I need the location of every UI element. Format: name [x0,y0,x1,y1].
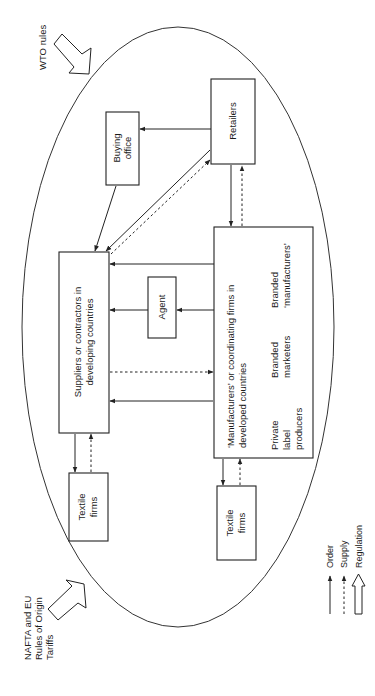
svg-text:Branded: Branded [269,272,280,308]
edge-buying-office-suppliers-order [95,186,116,251]
svg-text:Private: Private [269,420,280,450]
svg-text:Order: Order [325,545,335,568]
agent-node: Agent [148,277,176,338]
svg-text:Branded: Branded [269,342,280,378]
value-chain-diagram: WTO rules NAFTA and EU Rules of Origin T… [0,0,375,696]
legend-supply: Supply [339,540,349,614]
buying-office-node: Buying office [106,112,139,185]
svg-text:‘Manufacturers’ or coordinatin: ‘Manufacturers’ or coordinating firms in [225,285,236,448]
svg-text:label: label [281,430,292,450]
textile-firms-left-node: Textile firms [69,473,108,541]
nafta-regulation-arrow-icon [48,580,86,620]
svg-text:NAFTA and EU: NAFTA and EU [22,596,33,660]
wto-rules-label: WTO rules [37,25,48,70]
legend-order: Order [325,545,335,614]
svg-text:Rules of Origin: Rules of Origin [33,597,44,660]
svg-text:Retailers: Retailers [227,102,238,140]
svg-text:producers: producers [293,408,304,450]
svg-text:Textile: Textile [76,494,87,521]
legend: Order Supply Regulation [325,525,365,614]
svg-text:developing countries: developing countries [84,298,95,385]
svg-text:Buying: Buying [111,133,122,162]
svg-text:firms: firms [236,512,247,533]
svg-text:office: office [122,137,133,160]
wto-regulation-arrow-icon [54,34,91,74]
svg-text:Supply: Supply [339,540,349,568]
manufacturers-developed-countries-node: ‘Manufacturers’ or coordinating firms in… [214,227,313,458]
regulation-arrow-icon [352,574,365,614]
retailers-node: Retailers [211,79,255,164]
svg-text:firms: firms [88,496,99,517]
svg-text:Regulation: Regulation [354,525,364,568]
svg-text:‘manufacturers’: ‘manufacturers’ [281,243,292,308]
legend-regulation: Regulation [352,525,365,614]
textile-firms-right-node: Textile firms [217,486,256,560]
nafta-eu-rules-label: NAFTA and EU Rules of Origin Tariffs [22,596,55,660]
svg-text:Tariffs: Tariffs [44,635,55,660]
svg-text:Textile: Textile [224,510,235,537]
svg-text:Suppliers or contractors in: Suppliers or contractors in [72,287,83,397]
svg-text:developed countries: developed countries [237,363,248,448]
svg-text:marketers: marketers [281,336,292,378]
suppliers-developing-countries-node: Suppliers or contractors in developing c… [59,252,109,433]
svg-text:Agent: Agent [156,294,167,319]
